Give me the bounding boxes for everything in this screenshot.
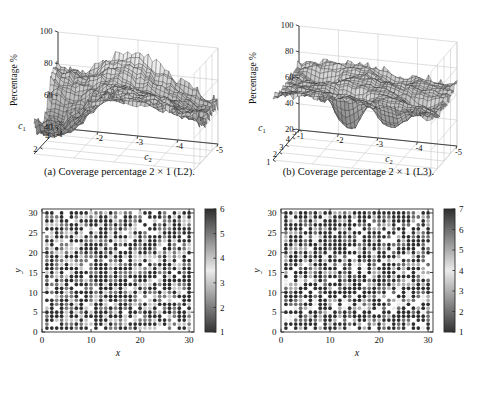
scatter-point bbox=[318, 223, 322, 227]
scatter-point bbox=[84, 298, 88, 302]
scatter-point bbox=[138, 215, 142, 219]
scatter-point bbox=[377, 215, 381, 219]
scatter-point bbox=[387, 298, 391, 302]
scatter-point bbox=[372, 322, 376, 326]
scatter-point bbox=[372, 290, 376, 294]
scatter-point bbox=[128, 290, 132, 294]
scatter-point bbox=[412, 219, 416, 223]
scatter-point bbox=[94, 298, 98, 302]
y-tick-label: 0 bbox=[272, 327, 277, 337]
scatter-point bbox=[343, 223, 347, 227]
scatter-point bbox=[367, 318, 371, 322]
scatter-point bbox=[412, 211, 416, 215]
scatter-point bbox=[397, 247, 401, 251]
scatter-point bbox=[173, 287, 177, 291]
scatter-point bbox=[187, 302, 191, 306]
scatter-point bbox=[343, 271, 347, 275]
scatter-point bbox=[182, 263, 186, 267]
scatter-point bbox=[124, 255, 128, 259]
scatter-point bbox=[109, 219, 113, 223]
scatter-point bbox=[348, 283, 352, 287]
scatter-point bbox=[158, 215, 162, 219]
scatter-point bbox=[79, 314, 83, 318]
scatter-point bbox=[397, 283, 401, 287]
scatter-point bbox=[426, 279, 430, 283]
scatter-point bbox=[182, 267, 186, 271]
scatter-point bbox=[407, 298, 411, 302]
scatter-point bbox=[338, 219, 342, 223]
scatter-point bbox=[168, 290, 172, 294]
scatter-point bbox=[187, 215, 191, 219]
scatter-point bbox=[294, 279, 298, 283]
scatter-point bbox=[333, 322, 337, 326]
scatter-point bbox=[343, 267, 347, 271]
scatter-point bbox=[70, 271, 74, 275]
scatter-point bbox=[187, 310, 191, 314]
scatter-point bbox=[416, 306, 420, 310]
scatter-point bbox=[163, 223, 167, 227]
scatter-point bbox=[412, 271, 416, 275]
scatter-point bbox=[348, 259, 352, 263]
scatter-point bbox=[397, 287, 401, 291]
scatter-point bbox=[338, 290, 342, 294]
scatter-point bbox=[138, 211, 142, 215]
scatter-point bbox=[367, 279, 371, 283]
scatter-point bbox=[289, 223, 293, 227]
scatter-point bbox=[323, 251, 327, 255]
scatter-point bbox=[173, 283, 177, 287]
panel-b-coverage-l3: 20406080100Percentage %54321c1-1-2-3-4-5… bbox=[239, 0, 478, 199]
scatter-point bbox=[163, 247, 167, 251]
scatter-point bbox=[289, 287, 293, 291]
scatter-point bbox=[372, 279, 376, 283]
scatter-point bbox=[338, 322, 342, 326]
scatter-point bbox=[70, 227, 74, 231]
scatter-point bbox=[158, 298, 162, 302]
scatter-point bbox=[377, 211, 381, 215]
scatter-point bbox=[387, 251, 391, 255]
scatter-point bbox=[50, 302, 54, 306]
scatter-point bbox=[412, 283, 416, 287]
scatter-point bbox=[70, 287, 74, 291]
scatter-point bbox=[309, 255, 313, 259]
scatter-point bbox=[318, 263, 322, 267]
scatter-point bbox=[119, 326, 123, 330]
scatter-point bbox=[348, 287, 352, 291]
scatter-point bbox=[182, 294, 186, 298]
scatter-point bbox=[158, 255, 162, 259]
scatter-point bbox=[99, 294, 103, 298]
scatter-point bbox=[412, 215, 416, 219]
scatter-point bbox=[363, 239, 367, 243]
scatter-point bbox=[119, 310, 123, 314]
scatter-point bbox=[99, 235, 103, 239]
scatter-point bbox=[412, 231, 416, 235]
scatter-point bbox=[128, 255, 132, 259]
scatter-point bbox=[353, 231, 357, 235]
scatter-point bbox=[153, 322, 157, 326]
scatter-point bbox=[74, 215, 78, 219]
scatter-point bbox=[377, 271, 381, 275]
scatter-point bbox=[309, 283, 313, 287]
scatter-point bbox=[318, 267, 322, 271]
scatter-point bbox=[79, 318, 83, 322]
scatter-point bbox=[407, 294, 411, 298]
scatter-point bbox=[421, 279, 425, 283]
scatter-point bbox=[412, 235, 416, 239]
scatter-point bbox=[299, 302, 303, 306]
scatter-point bbox=[294, 298, 298, 302]
scatter-point bbox=[382, 251, 386, 255]
scatter-point bbox=[182, 231, 186, 235]
scatter-point bbox=[187, 294, 191, 298]
scatter-point bbox=[382, 263, 386, 267]
scatter-point bbox=[74, 318, 78, 322]
scatter-point bbox=[45, 215, 49, 219]
scatter-point bbox=[70, 231, 74, 235]
scatter-point bbox=[114, 314, 118, 318]
scatter-point bbox=[348, 302, 352, 306]
scatter-point bbox=[99, 247, 103, 251]
scatter-point bbox=[177, 290, 181, 294]
scatter-point bbox=[104, 326, 108, 330]
scatter-point bbox=[397, 318, 401, 322]
scatter-point bbox=[416, 235, 420, 239]
scatter-point bbox=[104, 211, 108, 215]
scatter-point bbox=[328, 318, 332, 322]
